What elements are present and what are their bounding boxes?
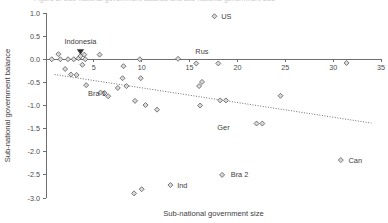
data-point-marker — [198, 103, 203, 108]
point-label-rus: Rus — [195, 47, 208, 56]
x-tick-label: 10 — [138, 63, 146, 72]
data-point-marker — [260, 121, 265, 126]
data-point-marker — [218, 98, 223, 103]
x-axis-tick-labels: 5101520253035 — [92, 63, 385, 72]
x-tick-label: 15 — [186, 63, 194, 72]
y-axis-tick-labels: 1.00.50.0-0.5-1.0-1.5-2.0-2.5-3.0 — [28, 9, 40, 203]
point-label-indonesia: Indonesia — [64, 37, 97, 46]
data-point-marker — [338, 158, 343, 163]
point-label-can: Can — [348, 156, 362, 165]
data-point-marker — [138, 76, 143, 81]
data-point-marker — [49, 57, 54, 62]
x-tick-label: 30 — [329, 63, 337, 72]
point-label-ger: Ger — [217, 123, 230, 132]
x-tick-label: 25 — [281, 63, 289, 72]
point-label-bra-1: Bra 1 — [88, 89, 106, 98]
data-point-marker — [68, 72, 73, 77]
y-tick-label: 1.0 — [30, 9, 40, 18]
trend-line — [55, 75, 372, 124]
data-point-marker — [216, 61, 221, 66]
y-tick-label: -2.5 — [28, 170, 40, 179]
x-axis-title: Sub-national government size — [163, 209, 263, 218]
data-point-marker — [197, 84, 202, 89]
y-tick-label: 0.0 — [30, 55, 40, 64]
data-point-marker — [139, 187, 144, 192]
y-tick-label: -0.5 — [28, 78, 40, 87]
y-tick-label: -2.0 — [28, 147, 40, 156]
y-tick-label: -1.0 — [28, 101, 40, 110]
data-point-marker — [220, 172, 225, 177]
x-tick-label: 35 — [377, 63, 385, 72]
y-axis-title: Sub-national government balance — [3, 49, 12, 163]
data-point-marker — [74, 72, 79, 77]
data-point-marker — [176, 56, 181, 61]
data-point-marker — [84, 83, 89, 88]
data-point-marker — [106, 94, 111, 99]
data-point-marker — [58, 57, 63, 62]
point-label-ind: Ind — [177, 181, 187, 190]
data-point-marker — [168, 183, 173, 188]
data-point-marker — [155, 107, 160, 112]
data-point-labels: IndonesiaUSRusBra 1GerCanBra 2Ind — [64, 12, 362, 190]
data-point-marker — [83, 57, 88, 62]
data-point-marker — [124, 84, 129, 89]
data-point-marker — [71, 57, 76, 62]
data-point-marker — [194, 61, 199, 66]
y-tick-label: -3.0 — [28, 194, 40, 203]
data-point-marker — [254, 121, 259, 126]
data-point-marker — [66, 57, 71, 62]
data-point-marker — [80, 62, 85, 67]
data-point-marker — [56, 52, 61, 57]
data-point-marker — [97, 52, 102, 57]
data-point-marker — [143, 103, 148, 108]
scatter-plot: 1.00.50.0-0.5-1.0-1.5-2.0-2.5-3.0 510152… — [0, 0, 388, 223]
chart-figure: Figure 5. Sub-national government balanc… — [0, 0, 388, 223]
data-point-marker — [132, 191, 137, 196]
data-point-marker — [115, 85, 120, 90]
x-tick-label: 5 — [92, 63, 96, 72]
data-point-marker — [212, 14, 217, 19]
data-point-marker — [200, 79, 205, 84]
data-point-marker — [223, 98, 228, 103]
data-point-marker — [63, 66, 68, 71]
x-tick-label: 20 — [233, 63, 241, 72]
data-point-marker — [278, 93, 283, 98]
y-tick-label: -1.5 — [28, 124, 40, 133]
data-point-marker — [120, 76, 125, 81]
data-point-marker — [121, 64, 126, 69]
y-tick-label: 0.5 — [30, 32, 40, 41]
point-label-bra-2: Bra 2 — [231, 170, 249, 179]
point-label-us: US — [221, 12, 231, 21]
data-point-marker — [344, 60, 349, 65]
data-point-marker — [133, 98, 138, 103]
